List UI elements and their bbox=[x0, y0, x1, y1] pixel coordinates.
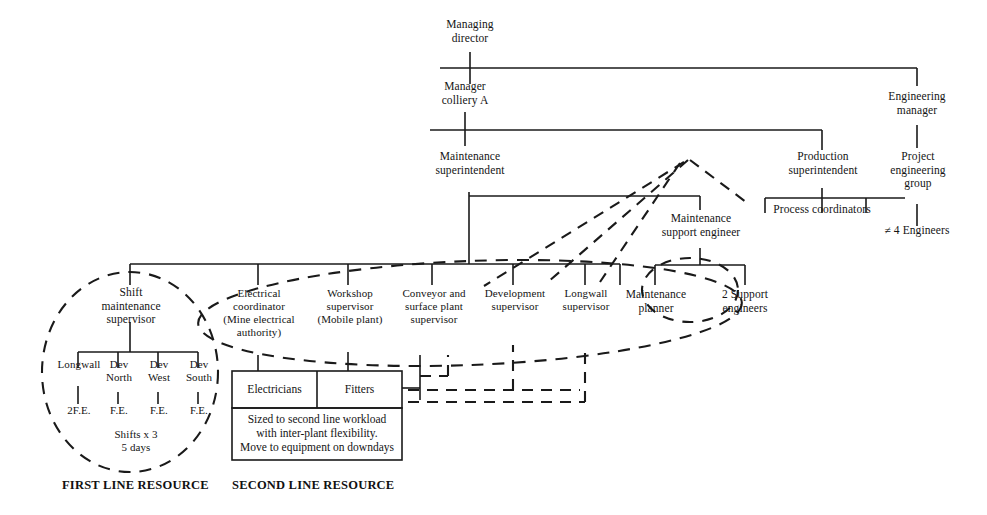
node-managing-director: Managing director bbox=[420, 18, 520, 45]
node-engineers-count: ≠ 4 Engineers bbox=[865, 224, 969, 238]
node-shift-maintenance-supervisor: Shift maintenance supervisor bbox=[82, 286, 180, 327]
node-maintenance-superintendent: Maintenance superintendent bbox=[414, 150, 526, 177]
node-support-engineers: 2 Support engineers bbox=[705, 288, 785, 315]
node-longwall-supervisor: Longwall supervisor bbox=[545, 287, 627, 313]
footer-second-line-resource: SECOND LINE RESOURCE bbox=[232, 478, 394, 493]
node-process-coordinators: Process coordinators bbox=[740, 203, 904, 217]
node-project-engineering-group: Project engineering group bbox=[878, 150, 958, 191]
box-cell-fitters: Fitters bbox=[317, 382, 402, 396]
shift-schedule-note: Shifts x 3 5 days bbox=[88, 428, 184, 454]
node-maintenance-support-engineer: Maintenance support engineer bbox=[645, 212, 757, 239]
dashed-apex-to-process bbox=[690, 160, 750, 205]
node-production-superintendent: Production superintendent bbox=[768, 150, 878, 177]
box-sizing-note-text: Sized to second line workload with inter… bbox=[233, 412, 401, 454]
org-chart-diagram: Managing director Manager colliery A Mai… bbox=[0, 0, 987, 515]
node-manager-colliery-a: Manager colliery A bbox=[415, 80, 515, 107]
node-workshop-supervisor: Workshop supervisor (Mobile plant) bbox=[300, 287, 400, 326]
box-cell-electricians: Electricians bbox=[232, 382, 317, 396]
crew-name-dev-south: Dev South bbox=[176, 358, 222, 384]
node-engineering-manager: Engineering manager bbox=[866, 90, 968, 117]
crew-resource-dev-south: F.E. bbox=[176, 404, 222, 417]
footer-first-line-resource: FIRST LINE RESOURCE bbox=[62, 478, 209, 493]
node-conveyor-surface-plant-supervisor: Conveyor and surface plant supervisor bbox=[386, 287, 482, 326]
